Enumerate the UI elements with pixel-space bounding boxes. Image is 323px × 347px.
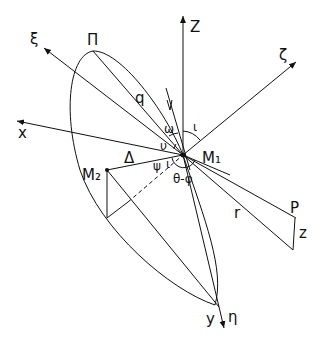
label-omega: ω	[164, 122, 174, 136]
m2-foot	[107, 202, 128, 218]
label-x: x	[18, 124, 27, 142]
label-r: r	[234, 204, 241, 222]
zeta-axis	[183, 62, 296, 155]
label-xi: ξ	[30, 30, 38, 48]
label-nu: υ	[160, 139, 167, 153]
label-z: z	[299, 224, 307, 242]
m2-to-y-line	[107, 170, 219, 307]
label-eta: η	[228, 308, 238, 326]
z-segment	[293, 218, 295, 250]
label-theta-phi: θ-φ	[173, 172, 193, 186]
label-iota: ι	[193, 120, 197, 134]
label-q: q	[135, 89, 145, 107]
label-P: P	[290, 199, 299, 217]
label-Z: Z	[190, 18, 200, 36]
label-y: y	[206, 310, 215, 328]
orbit-geometry-diagram: Z ζ ξ Π q x Δ M₂ ω ι υ ψ ι θ-φ M₁ r P z …	[0, 0, 323, 347]
label-m2: M₂	[82, 166, 101, 184]
label-psi: ψ	[153, 159, 161, 173]
label-iota-small: ι	[166, 157, 170, 171]
label-m1: M₁	[202, 149, 221, 167]
iota-arc	[183, 131, 200, 140]
label-delta: Δ	[124, 149, 135, 167]
label-pi: Π	[87, 31, 98, 49]
label-zeta: ζ	[279, 46, 287, 64]
delta-line	[107, 155, 183, 170]
